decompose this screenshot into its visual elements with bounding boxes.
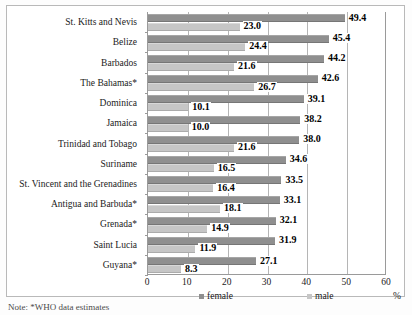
category-label: St. Kitts and Nevis <box>5 17 137 27</box>
data-label-male: 26.7 <box>257 82 277 92</box>
bar-male[interactable] <box>148 225 207 233</box>
bar-group: 42.626.7 <box>148 73 385 93</box>
bar-group: 39.110.1 <box>148 93 385 113</box>
data-label-female: 38.2 <box>303 114 323 124</box>
bar-group: 49.423.0 <box>148 12 385 32</box>
bar-female[interactable] <box>148 257 256 265</box>
data-label-female: 33.5 <box>284 175 304 185</box>
data-label-female: 38.0 <box>302 134 322 144</box>
x-tick-label: 30 <box>262 277 272 287</box>
x-tick-label: 0 <box>145 277 150 287</box>
category-label: Dominica <box>5 98 137 108</box>
category-label: Antigua and Barbuda* <box>5 199 137 209</box>
bar-male[interactable] <box>148 43 245 51</box>
x-tick-label: 10 <box>182 277 192 287</box>
x-axis: 0102030405060 <box>147 277 386 291</box>
chart-frame: St. Kitts and NevisBelizeBarbadosThe Bah… <box>6 5 405 297</box>
data-label-male: 21.6 <box>237 142 257 152</box>
legend-item-male[interactable]: male <box>307 291 333 301</box>
bar-male[interactable] <box>148 265 181 273</box>
data-label-male: 23.0 <box>243 21 263 31</box>
category-label: Barbados <box>5 58 137 68</box>
x-tick-label: 60 <box>381 277 391 287</box>
bar-group: 34.616.5 <box>148 154 385 174</box>
data-label-female: 49.4 <box>348 13 368 23</box>
bar-male[interactable] <box>148 63 234 71</box>
bar-male[interactable] <box>148 83 254 91</box>
category-label: Trinidad and Tobago <box>5 139 137 149</box>
category-label: Belize <box>5 37 137 47</box>
bar-group: 44.221.6 <box>148 52 385 72</box>
bar-group: 33.118.1 <box>148 194 385 214</box>
data-label-female: 32.1 <box>279 215 299 225</box>
bar-male[interactable] <box>148 205 220 213</box>
data-label-male: 10.1 <box>191 102 211 112</box>
bar-group: 33.516.4 <box>148 174 385 194</box>
legend-label: female <box>207 291 233 301</box>
bar-female[interactable] <box>148 55 324 63</box>
bar-female[interactable] <box>148 176 281 184</box>
bar-female[interactable] <box>148 95 304 103</box>
bar-group: 45.424.4 <box>148 32 385 52</box>
figure-note: Note: *WHO data estimates <box>8 302 109 312</box>
data-label-female: 44.2 <box>327 53 347 63</box>
bar-group: 32.114.9 <box>148 214 385 234</box>
data-label-male: 18.1 <box>223 203 243 213</box>
bar-group: 38.210.0 <box>148 113 385 133</box>
bar-group: 27.18.3 <box>148 255 385 275</box>
data-label-female: 31.9 <box>278 235 298 245</box>
x-tick-label: 50 <box>341 277 351 287</box>
bar-female[interactable] <box>148 196 280 204</box>
data-label-male: 16.4 <box>216 183 236 193</box>
data-label-female: 39.1 <box>307 94 327 104</box>
x-tick-label: 20 <box>222 277 232 287</box>
data-label-female: 27.1 <box>259 256 279 266</box>
bar-male[interactable] <box>148 245 195 253</box>
bar-group: 31.911.9 <box>148 235 385 255</box>
bar-female[interactable] <box>148 136 299 144</box>
data-label-male: 24.4 <box>248 41 268 51</box>
bar-male[interactable] <box>148 164 214 172</box>
category-label: Grenada* <box>5 219 137 229</box>
category-label: Guyana* <box>5 260 137 270</box>
x-tick-label: 40 <box>302 277 312 287</box>
chart-legend: femalemale <box>147 291 386 305</box>
data-label-male: 16.5 <box>217 163 237 173</box>
bar-female[interactable] <box>148 116 300 124</box>
bar-male[interactable] <box>148 103 188 111</box>
bar-male[interactable] <box>148 184 213 192</box>
data-label-female: 33.1 <box>283 195 303 205</box>
category-label: St. Vincent and the Grenadines <box>5 179 137 189</box>
legend-swatch-icon <box>199 294 204 299</box>
bar-male[interactable] <box>148 124 188 132</box>
plot-area: 49.423.045.424.444.221.642.626.739.110.1… <box>147 12 386 275</box>
legend-label: male <box>315 291 333 301</box>
data-label-female: 45.4 <box>332 33 352 43</box>
bar-male[interactable] <box>148 23 240 31</box>
bar-female[interactable] <box>148 35 329 43</box>
data-label-male: 10.0 <box>191 122 211 132</box>
percent-unit-label: % <box>393 291 401 301</box>
data-label-male: 14.9 <box>210 223 230 233</box>
bar-female[interactable] <box>148 75 318 83</box>
chart-area: St. Kitts and NevisBelizeBarbadosThe Bah… <box>7 6 406 298</box>
data-label-male: 8.3 <box>184 264 199 274</box>
data-label-female: 34.6 <box>289 154 309 164</box>
bar-male[interactable] <box>148 144 234 152</box>
category-label: Saint Lucia <box>5 240 137 250</box>
figure: St. Kitts and NevisBelizeBarbadosThe Bah… <box>0 0 412 315</box>
bar-group: 38.021.6 <box>148 133 385 153</box>
data-label-male: 11.9 <box>198 243 217 253</box>
axis-tick <box>145 275 148 276</box>
legend-item-female[interactable]: female <box>199 291 233 301</box>
legend-swatch-icon <box>307 294 312 299</box>
category-axis: St. Kitts and NevisBelizeBarbadosThe Bah… <box>7 12 141 275</box>
data-label-male: 21.6 <box>237 61 257 71</box>
data-label-female: 42.6 <box>321 73 341 83</box>
category-label: Jamaica <box>5 118 137 128</box>
category-label: The Bahamas* <box>5 78 137 88</box>
category-label: Suriname <box>5 159 137 169</box>
